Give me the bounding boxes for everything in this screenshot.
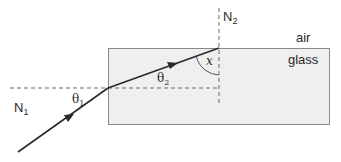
diagram-canvas: N1 N2 θ1 θ2 x air glass (0, 0, 341, 162)
label-angle-x: x (206, 54, 213, 68)
label-theta-1: θ1 (72, 92, 84, 108)
incident-ray-arrow-icon (0, 0, 72, 117)
label-air: air (296, 30, 311, 45)
incident-ray (18, 88, 108, 152)
label-n1: N1 (14, 100, 28, 117)
label-n2: N2 (223, 9, 237, 26)
refraction-diagram: N1 N2 θ1 θ2 x air glass (0, 0, 341, 162)
label-glass: glass (288, 52, 319, 67)
